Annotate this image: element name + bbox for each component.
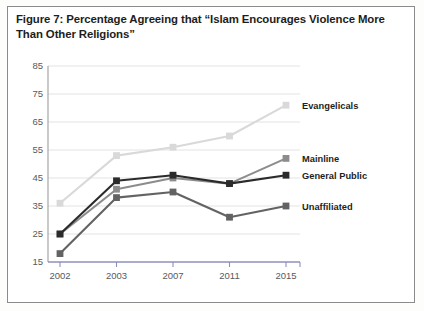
data-point-2015 [283,102,290,109]
series-unaffiliated [57,189,290,257]
series-label-mainline: Mainline [302,154,339,164]
series-line [60,105,286,203]
data-point-2007 [170,144,177,151]
data-point-2002 [57,231,64,238]
y-tick-label-65: 65 [32,116,43,127]
data-point-2002 [57,250,64,257]
series-label-general-public: General Public [302,171,367,181]
data-point-2011 [226,214,233,221]
line-chart: 152535455565758520022003200720112015Evan… [0,0,424,311]
data-point-2003 [113,152,120,159]
y-tick-label-85: 85 [32,60,43,71]
y-tick-label-75: 75 [32,88,43,99]
chart-plot-area: 152535455565758520022003200720112015Evan… [0,0,424,311]
data-point-2007 [170,189,177,196]
data-point-2003 [113,194,120,201]
data-point-2015 [283,155,290,162]
data-point-2011 [226,133,233,140]
x-tick-label-2015: 2015 [275,270,296,281]
x-tick-label-2011: 2011 [219,270,239,281]
x-tick-label-2007: 2007 [162,270,183,281]
x-tick-label-2003: 2003 [106,270,127,281]
series-line [60,158,286,234]
data-point-2003 [113,186,120,193]
data-point-2015 [283,203,290,210]
series-label-unaffiliated: Unaffiliated [302,202,353,212]
data-point-2015 [283,172,290,179]
series-label-evangelicals: Evangelicals [302,101,358,111]
y-tick-label-35: 35 [32,200,43,211]
data-point-2011 [226,180,233,187]
y-tick-label-45: 45 [32,172,43,183]
y-tick-label-15: 15 [32,256,43,267]
series-general-public [57,172,290,238]
data-point-2003 [113,177,120,184]
data-point-2002 [57,200,64,207]
y-tick-label-25: 25 [32,228,43,239]
figure-page: Figure 7: Percentage Agreeing that “Isla… [0,0,424,311]
series-mainline [57,155,290,237]
y-tick-label-55: 55 [32,144,43,155]
series-line [60,175,286,234]
x-tick-label-2002: 2002 [49,270,70,281]
data-point-2007 [170,172,177,179]
